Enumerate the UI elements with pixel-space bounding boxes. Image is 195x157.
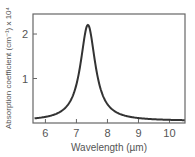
y-tick-label: 1	[22, 73, 28, 85]
x-tick-label: 7	[73, 127, 79, 139]
y-axis-label: Absorption coefficient (cm⁻¹) x 10⁴	[4, 6, 13, 129]
x-axis-ticks: 678910	[42, 119, 175, 139]
y-tick-label: 2	[22, 28, 28, 40]
x-axis-label: Wavelength (µm)	[71, 142, 147, 153]
absorption-curve	[35, 25, 185, 120]
y-axis-ticks: 12	[22, 28, 37, 84]
x-tick-label: 8	[104, 127, 110, 139]
absorption-chart: 678910 12 Wavelength (µm) Absorption coe…	[0, 0, 195, 157]
x-tick-label: 10	[163, 127, 175, 139]
x-tick-label: 6	[42, 127, 48, 139]
x-tick-label: 9	[135, 127, 141, 139]
